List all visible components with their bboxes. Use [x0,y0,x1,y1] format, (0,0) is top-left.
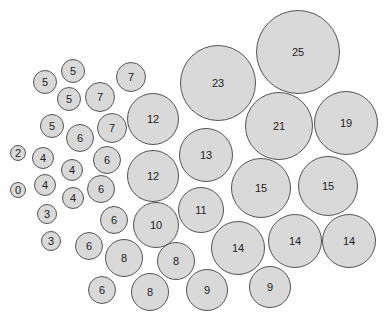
bubble-label: 15 [322,181,334,192]
bubble: 21 [245,92,313,160]
bubble: 6 [66,124,94,152]
bubble: 4 [61,159,83,181]
bubble-label: 13 [200,150,212,161]
bubble-label: 6 [98,184,104,195]
bubble: 4 [32,147,54,169]
bubble-label: 15 [255,183,267,194]
bubble: 6 [88,276,116,304]
bubble: 8 [131,273,169,311]
bubble-label: 7 [109,123,115,134]
bubble: 11 [178,187,224,233]
bubble: 7 [97,113,127,143]
bubble-label: 8 [147,287,153,298]
bubble: 6 [87,175,115,203]
bubble: 3 [41,231,61,251]
bubble: 5 [61,59,85,83]
bubble: 9 [186,269,228,311]
bubble: 14 [268,214,322,268]
bubble-label: 4 [70,193,76,204]
bubble-label: 21 [273,121,285,132]
bubble-label: 14 [289,236,301,247]
bubble-label: 5 [42,77,48,88]
bubble: 25 [256,10,340,94]
bubble-label: 14 [343,236,355,247]
bubble: 6 [75,232,103,260]
bubble: 7 [85,82,115,112]
bubble-label: 5 [66,94,72,105]
bubble-label: 7 [97,92,103,103]
bubble: 5 [57,87,81,111]
bubble: 3 [37,204,57,224]
bubble-label: 6 [77,133,83,144]
bubble-label: 4 [69,165,75,176]
bubble: 6 [93,146,121,174]
bubble: 14 [211,221,265,275]
bubble-label: 8 [173,256,179,267]
bubble-label: 9 [267,282,273,293]
bubble: 12 [127,150,179,202]
bubble-label: 6 [86,241,92,252]
bubble: 15 [231,158,291,218]
bubble: 4 [62,187,84,209]
bubble-label: 0 [15,185,21,196]
bubble: 9 [249,266,291,308]
bubble: 14 [322,214,376,268]
bubble-label: 3 [48,236,54,247]
bubble-label: 14 [232,243,244,254]
bubble-label: 19 [340,118,352,129]
bubble: 5 [40,114,64,138]
bubble-label: 5 [49,121,55,132]
bubble: 6 [100,206,128,234]
bubble-label: 5 [70,66,76,77]
bubble-label: 25 [292,47,304,58]
bubble: 0 [10,182,26,198]
bubble: 13 [179,128,233,182]
bubble: 19 [314,91,378,155]
bubble: 8 [105,239,143,277]
bubble-label: 3 [44,209,50,220]
bubble-label: 4 [42,180,48,191]
bubble: 12 [127,93,179,145]
bubble-label: 23 [212,78,224,89]
bubble: 4 [34,174,56,196]
bubble: 8 [157,242,195,280]
bubble-label: 9 [204,285,210,296]
bubble-label: 4 [40,153,46,164]
bubble: 15 [298,156,358,216]
bubble: 5 [33,70,57,94]
bubble-chart: 2523211912131215151110141414899886666667… [0,0,389,324]
bubble-label: 7 [128,72,134,83]
bubble-label: 10 [150,220,162,231]
bubble-label: 12 [147,171,159,182]
bubble: 10 [133,202,179,248]
bubble-label: 6 [111,215,117,226]
bubble: 2 [10,145,26,161]
bubble: 7 [116,62,146,92]
bubble-label: 12 [147,114,159,125]
bubble-label: 6 [104,155,110,166]
bubble-label: 6 [99,285,105,296]
bubble: 23 [180,45,256,121]
bubble-label: 11 [195,205,206,216]
bubble-label: 8 [121,253,127,264]
bubble-label: 2 [15,148,21,159]
